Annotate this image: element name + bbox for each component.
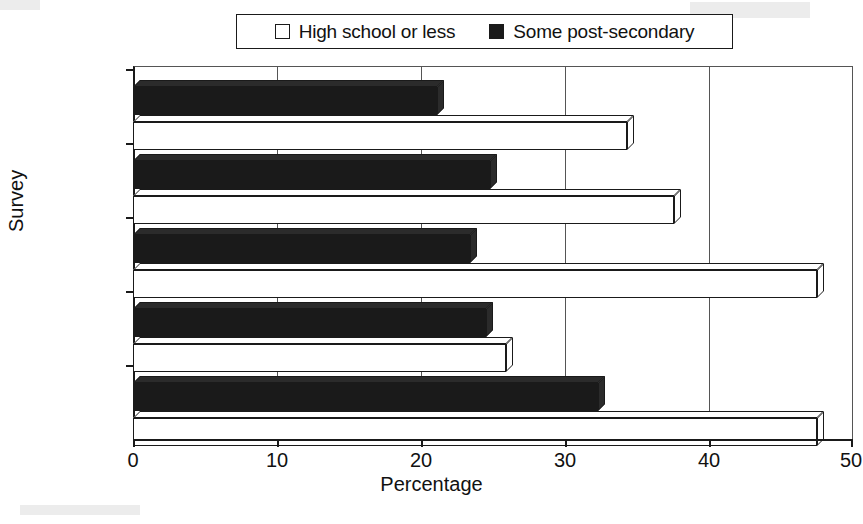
chart-legend: High school or less Some post-secondary <box>236 14 733 49</box>
x-axis-title: Percentage <box>0 474 863 494</box>
y-tick-2000-01 <box>126 69 133 71</box>
bar-top-1990-post-secondary <box>133 228 477 235</box>
x-tick-label-40: 40 <box>698 450 720 470</box>
bar-top-2000-01-post-secondary <box>133 80 444 87</box>
gridline-40 <box>709 66 710 439</box>
y-tick-1985 <box>126 291 133 293</box>
x-tick-30 <box>565 439 567 447</box>
chart-figure: High school or less Some post-secondary … <box>0 0 863 524</box>
legend-swatch-filled-icon <box>489 24 504 39</box>
x-tick-label-30: 30 <box>554 450 576 470</box>
bar-top-1985-high-school <box>133 337 513 344</box>
legend-label-high-school: High school or less <box>299 22 456 41</box>
bar-top-1994-95-post-secondary <box>133 154 497 161</box>
y-tick-1978-79 <box>126 365 133 367</box>
bar-top-1985-post-secondary <box>133 302 493 309</box>
bar-1978-79-high-school <box>133 418 817 446</box>
x-axis: 0 10 20 30 40 50 <box>133 439 853 440</box>
y-axis-title: Survey <box>6 170 26 232</box>
bar-top-1990-high-school <box>133 263 824 270</box>
x-tick-50 <box>851 439 853 447</box>
bar-top-1994-95-high-school <box>133 189 681 196</box>
scan-artifact <box>0 0 40 10</box>
x-tick-0 <box>133 439 135 447</box>
bar-1985-high-school <box>133 344 506 372</box>
legend-entry-post-secondary: Some post-secondary <box>489 22 694 41</box>
plot-area: 2000/01 1994/95 1990 1985 <box>133 66 853 439</box>
x-tick-label-50: 50 <box>840 450 862 470</box>
y-tick-1990 <box>126 217 133 219</box>
bar-1978-79-post-secondary <box>133 383 598 411</box>
bar-1994-95-high-school <box>133 196 674 224</box>
x-axis-line <box>133 439 853 441</box>
x-tick-20 <box>421 439 423 447</box>
x-tick-label-20: 20 <box>410 450 432 470</box>
y-tick-1994-95 <box>126 143 133 145</box>
bar-2000-01-high-school <box>133 122 627 150</box>
bar-top-1978-79-post-secondary <box>133 376 605 383</box>
legend-swatch-open-icon <box>275 24 290 39</box>
scan-artifact <box>20 505 140 515</box>
bar-1990-post-secondary <box>133 235 470 263</box>
bar-2000-01-post-secondary <box>133 87 437 115</box>
bar-1990-high-school <box>133 270 817 298</box>
x-tick-label-10: 10 <box>266 450 288 470</box>
bar-top-1978-79-high-school <box>133 411 824 418</box>
x-tick-10 <box>277 439 279 447</box>
bar-1994-95-post-secondary <box>133 161 490 189</box>
x-tick-40 <box>709 439 711 447</box>
legend-label-post-secondary: Some post-secondary <box>513 22 694 41</box>
x-tick-label-0: 0 <box>127 450 138 470</box>
legend-entry-high-school: High school or less <box>275 22 456 41</box>
bar-1985-post-secondary <box>133 309 486 337</box>
bar-top-2000-01-high-school <box>133 115 634 122</box>
